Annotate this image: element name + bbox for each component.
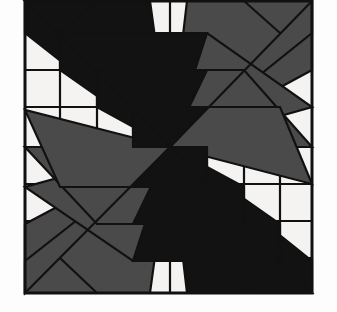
- pinwheel-block-figure: Rotationally symmetric four-quadrant pin…: [0, 0, 337, 312]
- figure-root: Rotationally symmetric four-quadrant pin…: [0, 0, 337, 312]
